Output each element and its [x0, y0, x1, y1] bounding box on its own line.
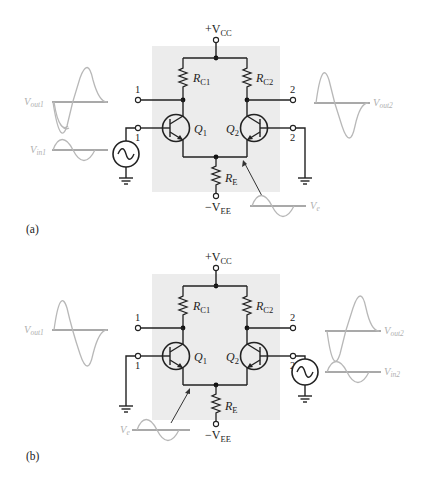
vee-label: −VEE [205, 200, 231, 216]
panel-a-label: (a) [26, 223, 39, 236]
base1-ground-wire [126, 356, 135, 406]
ac-source-icon [113, 141, 139, 167]
differential-amplifier-figure: +VCC RC1 RC2 1 2 Q1 [0, 0, 425, 480]
out2-terminal [290, 325, 295, 330]
source-wire [126, 128, 135, 141]
ve-waveform [132, 420, 190, 441]
vin2-waveform [325, 362, 381, 383]
vin2-label: Vin2 [384, 366, 400, 379]
vout2-label: Vout2 [373, 97, 393, 110]
ground-icon [298, 396, 312, 402]
vin1-label: Vin1 [30, 144, 46, 157]
in1-terminal [135, 125, 140, 130]
in1-terminal-label: 1 [135, 132, 140, 143]
panel-b-label: (b) [26, 450, 40, 463]
vout2-label: Vout2 [384, 325, 404, 338]
panel-b: +VCC RC1 RC2 1 2 Q1 [24, 250, 404, 463]
in1-terminal-label: 1 [135, 360, 140, 371]
ve-waveform [250, 196, 306, 217]
vout1-label: Vout1 [24, 96, 44, 109]
vout1-waveform [52, 301, 108, 366]
ground-icon [119, 178, 133, 184]
in2-terminal [290, 125, 295, 130]
ve-label: Ve [310, 200, 320, 213]
panel-a: +VCC RC1 RC2 1 2 Q1 [24, 22, 393, 236]
in2-terminal [290, 353, 295, 358]
vout2-waveform [325, 296, 381, 361]
out1-terminal-label: 1 [135, 84, 140, 95]
ground-icon [298, 178, 312, 184]
out1-terminal [135, 325, 140, 330]
vcc-label: +VCC [205, 22, 232, 38]
ve-label: Ve [120, 424, 130, 437]
vee-label: −VEE [205, 428, 231, 444]
in1-terminal [135, 353, 140, 358]
out1-terminal-label: 1 [135, 312, 140, 323]
vcc-terminal [213, 265, 218, 270]
in2-terminal-label: 2 [290, 132, 295, 143]
out2-terminal [290, 97, 295, 102]
out1-terminal [135, 97, 140, 102]
out2-terminal-label: 2 [290, 84, 295, 95]
vcc-label: +VCC [205, 250, 232, 266]
out2-terminal-label: 2 [290, 312, 295, 323]
ground-icon [119, 406, 133, 412]
base2-ground-wire [296, 128, 305, 178]
vout1-label: Vout1 [24, 324, 44, 337]
vout2-waveform [314, 73, 370, 138]
vcc-terminal [213, 37, 218, 42]
vee-terminal [213, 193, 218, 198]
vin1-waveform [52, 140, 108, 161]
ac-source-icon [292, 359, 318, 385]
vee-terminal [213, 421, 218, 426]
vout1-waveform [52, 67, 108, 133]
